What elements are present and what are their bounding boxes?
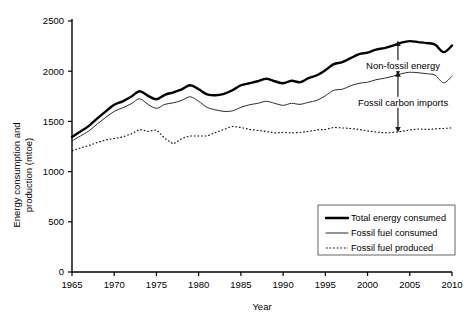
y-axis-title-line-1: Energy consumption and bbox=[11, 122, 22, 227]
x-tick-label: 2005 bbox=[399, 279, 420, 290]
x-tick-label: 2010 bbox=[441, 279, 462, 290]
x-tick-label: 1965 bbox=[61, 279, 82, 290]
x-axis-title: Year bbox=[252, 301, 271, 312]
x-tick-label: 1995 bbox=[315, 279, 336, 290]
series-line-2 bbox=[72, 126, 452, 151]
legend-label-2: Fossil fuel produced bbox=[351, 243, 433, 253]
legend-label-1: Fossil fuel consumed bbox=[351, 228, 437, 238]
y-tick-label: 1000 bbox=[43, 166, 64, 177]
x-axis-ticks: 1965197019751980198519901995200020052010 bbox=[61, 272, 462, 290]
chart-figure: Energy consumption and production (mtoe)… bbox=[0, 0, 473, 326]
annotation-label-fossil-carbon-imports: Fossil carbon imports bbox=[358, 97, 449, 108]
annotation-group: Non-fossil energyFossil carbon imports bbox=[351, 43, 456, 131]
energy-line-chart: Energy consumption and production (mtoe)… bbox=[0, 0, 473, 326]
x-tick-label: 1990 bbox=[273, 279, 294, 290]
y-tick-label: 500 bbox=[48, 216, 64, 227]
x-tick-label: 1970 bbox=[104, 279, 125, 290]
y-tick-label: 2000 bbox=[43, 66, 64, 77]
x-tick-label: 1975 bbox=[146, 279, 167, 290]
chart-legend: Total energy consumedFossil fuel consume… bbox=[318, 205, 455, 255]
y-axis-title: Energy consumption and production (mtoe) bbox=[11, 122, 34, 227]
x-tick-label: 2000 bbox=[357, 279, 378, 290]
y-axis-ticks: 05001000150020002500 bbox=[43, 15, 72, 277]
annotation-label-non-fossil-energy: Non-fossil energy bbox=[366, 60, 440, 71]
legend-label-0: Total energy consumed bbox=[351, 213, 446, 223]
y-axis-title-line-2: production (mtoe) bbox=[23, 138, 34, 212]
y-tick-label: 2500 bbox=[43, 15, 64, 26]
x-tick-label: 1985 bbox=[230, 279, 251, 290]
y-tick-label: 1500 bbox=[43, 116, 64, 127]
x-tick-label: 1980 bbox=[188, 279, 209, 290]
series-line-0 bbox=[72, 41, 452, 137]
y-tick-label: 0 bbox=[59, 266, 64, 277]
